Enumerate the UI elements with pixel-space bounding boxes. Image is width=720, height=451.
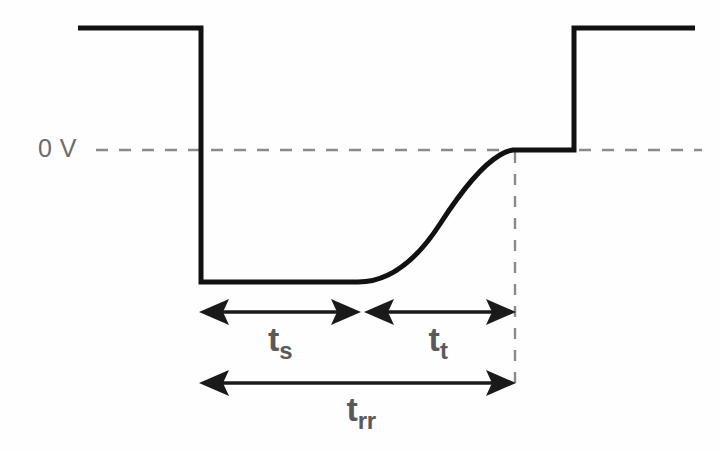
transition-time-symbol: t bbox=[429, 320, 440, 358]
reverse-recovery-time-symbol: t bbox=[346, 390, 357, 428]
storage-time-label: ts bbox=[248, 322, 312, 356]
reverse-recovery-time-subscript: rr bbox=[358, 407, 376, 434]
storage-time-subscript: s bbox=[279, 337, 292, 364]
diagram-canvas: 0 V ts tt trr bbox=[0, 0, 720, 451]
transition-time-label: tt bbox=[406, 322, 470, 356]
transition-time-subscript: t bbox=[440, 337, 448, 364]
storage-time-symbol: t bbox=[268, 320, 279, 358]
diode-voltage-waveform bbox=[78, 28, 695, 282]
reverse-recovery-time-label: trr bbox=[324, 392, 398, 426]
zero-volt-label: 0 V bbox=[38, 136, 77, 161]
waveform-diagram bbox=[0, 0, 720, 451]
